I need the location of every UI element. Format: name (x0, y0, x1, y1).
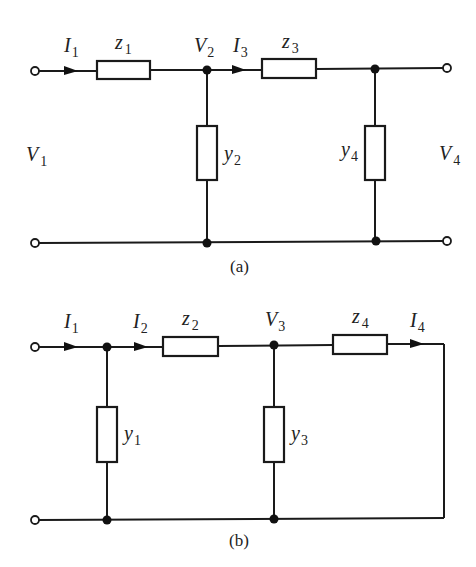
circuit-a: I1 z1 V2 I3 z3 V1 y2 y4 V4 (a) (26, 30, 460, 276)
label-a-z1: z1 (114, 31, 132, 57)
node-v3 (270, 341, 279, 350)
label-b-v3: V3 (265, 308, 285, 334)
terminal-b-bottom-left (31, 516, 39, 524)
terminal-b-top-left (31, 343, 39, 351)
impedance-z1 (97, 61, 150, 79)
admittance-y2 (197, 126, 217, 180)
label-b-i1: I1 (63, 310, 79, 336)
node-a-bottom-left (203, 239, 212, 248)
label-a-v4: V4 (439, 142, 460, 168)
label-a-i1: I1 (63, 34, 79, 60)
current-arrow-i2 (134, 342, 148, 351)
impedance-z4 (333, 335, 387, 354)
node-b-bottom-left (103, 516, 112, 525)
node-v2 (203, 66, 212, 75)
current-arrow-i1 (64, 342, 78, 351)
current-arrow-i4 (410, 339, 424, 348)
label-a-v1: V1 (26, 143, 47, 169)
wire-b-bottom (39, 518, 444, 520)
circuit-b: I1 I2 z2 V3 z4 I4 y1 y3 (b) (31, 305, 444, 550)
admittance-y3 (264, 407, 284, 462)
label-b-z4: z4 (351, 305, 369, 331)
label-a-y4: y4 (339, 138, 358, 164)
wire-a-top-3 (316, 68, 443, 69)
current-arrow-i3 (232, 65, 246, 74)
admittance-y4 (365, 126, 385, 180)
node-a-bottom-right (372, 237, 381, 246)
terminal-a-bottom-left (31, 239, 39, 247)
label-a-i3: I3 (232, 34, 248, 60)
label-b-i4: I4 (409, 309, 425, 335)
label-a-y2: y2 (222, 142, 241, 168)
label-a-z3: z3 (281, 30, 299, 56)
node-b-bottom-mid (270, 515, 279, 524)
admittance-y1 (97, 407, 117, 462)
label-b-i2: I2 (132, 310, 148, 336)
label-a-v2: V2 (194, 34, 214, 60)
circuit-diagrams: I1 z1 V2 I3 z3 V1 y2 y4 V4 (a) (0, 0, 476, 567)
caption-a: (a) (230, 257, 249, 276)
terminal-a-top-left (31, 67, 39, 75)
caption-b: (b) (229, 531, 249, 550)
label-b-y1: y1 (122, 422, 141, 448)
wire-a-bottom (39, 241, 443, 243)
node-b-top-left (103, 343, 112, 352)
impedance-z2 (163, 337, 218, 356)
impedance-z3 (262, 59, 316, 78)
terminal-a-bottom-right (443, 237, 451, 245)
current-arrow-i1 (64, 66, 78, 75)
terminal-a-top-right (443, 64, 451, 72)
label-b-y3: y3 (289, 422, 308, 448)
label-b-z2: z2 (181, 307, 199, 333)
node-a-top-right (371, 65, 380, 74)
